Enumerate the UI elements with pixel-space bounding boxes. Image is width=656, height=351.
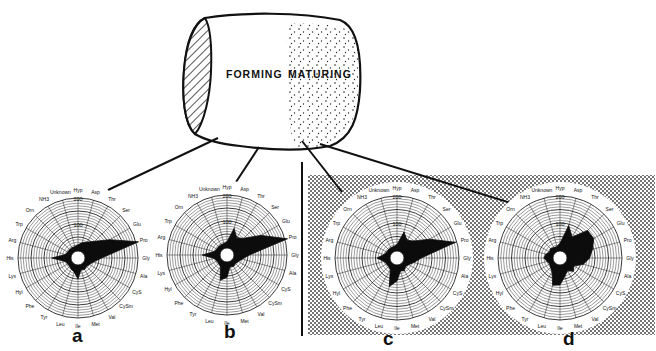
axis-label-pro: Pro — [140, 237, 148, 243]
axis-label-met: Met — [91, 321, 100, 327]
axis-label-phe: Phe — [25, 303, 34, 309]
axis-label-nh3: NH3 — [520, 194, 530, 200]
axis-label-trp: Trp — [333, 220, 341, 226]
tooth-end-cap-hatched — [183, 18, 211, 134]
scale-tick-label: 200 — [392, 194, 401, 200]
axis-label-thr: Thr — [257, 193, 265, 199]
axis-label-unknown: Unknown — [368, 187, 389, 193]
axis-label-leu: Leu — [375, 323, 384, 329]
axis-label-hyp: Hyp — [223, 184, 232, 190]
scale-tick-label: 100 — [392, 221, 401, 227]
axis-label-met: Met — [574, 323, 583, 329]
axis-label-ser: Ser — [606, 206, 614, 212]
axis-label-tyr: Tyr — [41, 314, 48, 320]
figure-canvas: 100200HypAspThrSerGluProGlyAlaCySCySmVal… — [0, 0, 656, 351]
axis-label-cys: CyS — [132, 289, 142, 295]
radar-chart-c: 100200HypAspThrSerGluProGlyAlaCySCySmVal… — [321, 182, 473, 334]
axis-label-pro: Pro — [624, 237, 632, 243]
axis-label-cysm: CySm — [119, 303, 133, 309]
axis-label-cys: CyS — [453, 290, 463, 296]
axis-label-val: Val — [258, 311, 265, 317]
connector-line-a — [108, 138, 218, 190]
axis-label-cys: CyS — [616, 290, 626, 296]
radar-chart-b: 100200HypAspThrSerGluProGlyAlaCySCySmVal… — [153, 181, 301, 329]
axis-label-cysm: CySm — [440, 305, 454, 311]
axis-label-orn: Orn — [343, 206, 352, 212]
axis-label-ala: Ala — [140, 273, 147, 279]
axis-label-lys: Lys — [157, 270, 165, 276]
axis-label-leu: Leu — [538, 323, 547, 329]
forming-zone-label: FORMING — [226, 68, 283, 80]
axis-label-val: Val — [109, 314, 116, 320]
axis-label-unknown: Unknown — [199, 186, 220, 192]
axis-label-pro: Pro — [289, 234, 297, 240]
axis-label-gly: Gly — [626, 255, 634, 261]
scale-tick-label: 100 — [555, 221, 564, 227]
axis-label-ser: Ser — [443, 206, 451, 212]
axis-label-cysm: CySm — [603, 305, 617, 311]
axis-label-glu: Glu — [282, 218, 290, 224]
axis-label-arg: Arg — [157, 234, 165, 240]
axis-label-phe: Phe — [174, 300, 183, 306]
axis-label-tyr: Tyr — [359, 316, 366, 322]
center-hole — [71, 251, 85, 265]
axis-label-ala: Ala — [461, 273, 468, 279]
axis-label-lys: Lys — [8, 273, 16, 279]
axis-label-his: His — [323, 255, 331, 261]
scale-tick-label: 100 — [222, 219, 231, 225]
scale-tick-label: 200 — [222, 193, 231, 199]
scale-tick-label: 100 — [73, 222, 82, 228]
axis-label-glu: Glu — [454, 220, 462, 226]
axis-label-cys: CyS — [281, 286, 291, 292]
axis-label-thr: Thr — [108, 196, 116, 202]
axis-label-hyl: Hyl — [333, 290, 340, 296]
radar-chart-a: 100200HypAspThrSerGluProGlyAlaCySCySmVal… — [4, 184, 152, 332]
axis-label-hyp: Hyp — [393, 185, 402, 191]
axis-label-orn: Orn — [506, 206, 515, 212]
axis-label-hyl: Hyl — [496, 290, 503, 296]
axis-label-asp: Asp — [411, 187, 420, 193]
axis-label-glu: Glu — [133, 221, 141, 227]
axis-label-gly: Gly — [142, 255, 150, 261]
panel-label-d: d — [563, 329, 575, 348]
axis-label-glu: Glu — [617, 220, 625, 226]
axis-label-cysm: CySm — [268, 300, 282, 306]
axis-label-asp: Asp — [91, 189, 100, 195]
axis-label-his: His — [486, 255, 494, 261]
axis-label-hyl: Hyl — [15, 289, 22, 295]
axis-label-gly: Gly — [291, 252, 299, 258]
axis-label-lys: Lys — [326, 273, 334, 279]
axis-label-met: Met — [240, 318, 249, 324]
radar-chart-d: 100200HypAspThrSerGluProGlyAlaCySCySmVal… — [484, 182, 636, 334]
axis-label-thr: Thr — [428, 194, 436, 200]
axis-label-leu: Leu — [205, 318, 214, 324]
axis-label-trp: Trp — [164, 218, 172, 224]
axis-label-leu: Leu — [56, 321, 65, 327]
axis-label-tyr: Tyr — [522, 316, 529, 322]
axis-label-phe: Phe — [506, 305, 515, 311]
axis-label-ala: Ala — [289, 270, 296, 276]
connector-line-b — [236, 147, 259, 182]
panel-label-c: c — [383, 329, 394, 348]
axis-label-trp: Trp — [496, 220, 504, 226]
figure: 100200HypAspThrSerGluProGlyAlaCySCySmVal… — [0, 0, 656, 351]
axis-label-hyp: Hyp — [74, 187, 83, 193]
axis-label-ile: Ile — [394, 325, 400, 331]
axis-label-nh3: NH3 — [357, 194, 367, 200]
axis-label-ser: Ser — [271, 204, 279, 210]
center-hole — [390, 251, 404, 265]
axis-label-nh3: NH3 — [188, 193, 198, 199]
axis-label-hyp: Hyp — [556, 185, 565, 191]
scale-tick-label: 200 — [73, 196, 82, 202]
panel-label-a: a — [72, 326, 83, 345]
axis-label-his: His — [6, 255, 14, 261]
axis-label-ala: Ala — [624, 273, 631, 279]
center-hole — [553, 251, 567, 265]
axis-label-lys: Lys — [489, 273, 497, 279]
axis-label-unknown: Unknown — [50, 189, 71, 195]
axis-label-pro: Pro — [461, 237, 469, 243]
axis-label-orn: Orn — [26, 207, 35, 213]
panel-label-b: b — [224, 322, 236, 341]
axis-label-nh3: NH3 — [39, 196, 49, 202]
axis-label-ser: Ser — [122, 207, 130, 213]
